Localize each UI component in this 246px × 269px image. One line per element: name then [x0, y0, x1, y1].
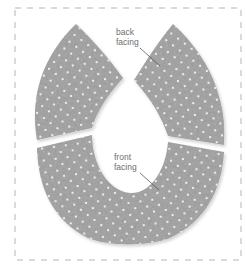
- front-facing-label-line1: front: [114, 152, 137, 162]
- front-facing-label: front facing: [114, 152, 137, 172]
- back-facing-label-line1: back: [116, 27, 139, 37]
- front-facing-label-line2: facing: [114, 162, 137, 172]
- back-facing-left-piece: [35, 24, 123, 140]
- back-facing-label-line2: facing: [116, 37, 139, 47]
- back-facing-right-piece: [134, 24, 224, 145]
- back-facing-label: back facing: [116, 27, 139, 47]
